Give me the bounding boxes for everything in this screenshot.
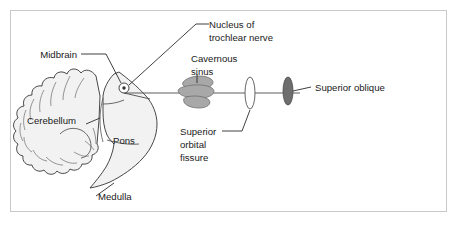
label-cavernous-line2: sinus (191, 66, 214, 77)
label-orbital-line3: fissure (180, 152, 208, 163)
label-cavernous-line1: Cavernous (191, 53, 238, 64)
trochlear-nucleus (119, 83, 129, 93)
cavernous-sinus-lobe-bottom (184, 96, 210, 108)
label-nucleus-line1: Nucleus of (209, 19, 255, 30)
label-medulla: Medulla (98, 191, 132, 202)
figure-root: Nucleus of trochlear nerve Midbrain Cave… (0, 0, 459, 225)
label-orbital-line1: Superior (180, 126, 217, 137)
label-midbrain: Midbrain (40, 49, 77, 60)
leader-superior-orbital-fissure (222, 110, 250, 131)
anatomy-diagram: Nucleus of trochlear nerve Midbrain Cave… (0, 0, 459, 225)
superior-orbital-fissure-shape (245, 77, 255, 109)
nucleus-dot (122, 86, 125, 89)
leader-superior-oblique (293, 87, 311, 91)
label-superior-oblique: Superior oblique (315, 82, 385, 93)
superior-oblique-shape (283, 77, 293, 105)
label-orbital-line2: orbital (180, 139, 206, 150)
cavernous-sinus-structure (178, 76, 214, 108)
label-pons: Pons (113, 135, 135, 146)
label-cerebellum: Cerebellum (27, 115, 76, 126)
label-nucleus-line2: trochlear nerve (209, 32, 273, 43)
